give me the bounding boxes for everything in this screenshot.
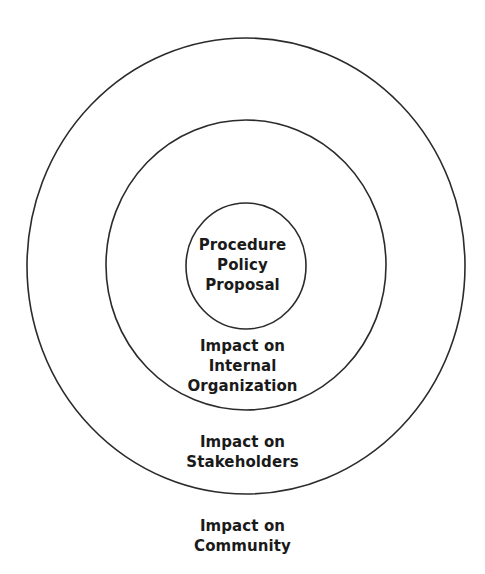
stakeholders-label-line-1: Impact on (0, 432, 485, 452)
core-label: Procedure Policy Proposal (0, 235, 485, 295)
community-label: Impact on Community (0, 516, 485, 556)
core-label-line-2: Policy (0, 255, 485, 275)
stakeholders-label: Impact on Stakeholders (0, 432, 485, 472)
core-label-line-1: Procedure (0, 235, 485, 255)
internal-label-line-2: Internal (0, 356, 485, 376)
core-label-line-3: Proposal (0, 275, 485, 295)
stakeholders-label-line-2: Stakeholders (0, 452, 485, 472)
internal-label-line-3: Organization (0, 376, 485, 396)
community-label-line-1: Impact on (0, 516, 485, 536)
community-label-line-2: Community (0, 536, 485, 556)
internal-organization-label: Impact on Internal Organization (0, 336, 485, 396)
internal-label-line-1: Impact on (0, 336, 485, 356)
